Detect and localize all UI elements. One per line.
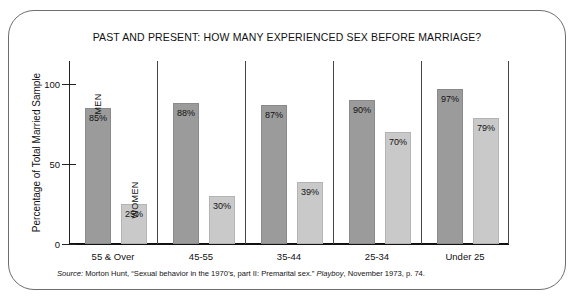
bar-group-under-25: 97% 79% Under 25 bbox=[421, 61, 509, 244]
series-tag-men-text: MEN bbox=[93, 94, 103, 115]
bar-value-label: 25% bbox=[122, 209, 146, 219]
bar-group-25-34: 90% 70% 25-34 bbox=[333, 61, 421, 244]
category-label: 35-44 bbox=[245, 251, 333, 262]
bar-value-label: 30% bbox=[210, 201, 234, 211]
bar-value-label: 70% bbox=[386, 137, 410, 147]
source-publication: Playboy bbox=[316, 269, 343, 278]
bar-women[interactable]: 70% bbox=[385, 132, 411, 244]
plot-area: 0 50 100 MEN 85% WOMEN 2 bbox=[69, 61, 509, 244]
source-prefix: Source: bbox=[57, 269, 83, 278]
series-tag-men: MEN bbox=[86, 75, 110, 109]
bar-value-label: 39% bbox=[298, 187, 322, 197]
bar-value-label: 79% bbox=[474, 123, 498, 133]
bar-group-45-55: 88% 30% 45-55 bbox=[157, 61, 245, 244]
bar-men[interactable]: 90% bbox=[349, 100, 375, 244]
category-label: 45-55 bbox=[157, 251, 245, 262]
bar-women[interactable]: 79% bbox=[473, 118, 499, 244]
bar-value-label: 90% bbox=[350, 105, 374, 115]
bar-value-label: 88% bbox=[174, 108, 198, 118]
y-tick-label: 50 bbox=[49, 159, 60, 170]
category-label: 25-34 bbox=[333, 251, 421, 262]
chart-title: PAST AND PRESENT: HOW MANY EXPERIENCED S… bbox=[9, 31, 565, 43]
category-label: Under 25 bbox=[421, 251, 509, 262]
y-axis-label: Percentage of Total Married Sample bbox=[29, 61, 45, 244]
bar-value-label: 87% bbox=[262, 110, 286, 120]
figure-panel: PAST AND PRESENT: HOW MANY EXPERIENCED S… bbox=[8, 10, 566, 290]
source-author: Morton Hunt, “Sexual behavior in the 197… bbox=[83, 269, 316, 278]
bar-value-label: 85% bbox=[86, 113, 110, 123]
y-tick-mark bbox=[62, 244, 76, 245]
bar-women[interactable]: WOMEN 25% bbox=[121, 204, 147, 244]
bar-men[interactable]: MEN 85% bbox=[85, 108, 111, 244]
source-suffix: , November 1973, p. 74. bbox=[343, 269, 424, 278]
bar-value-label: 97% bbox=[438, 94, 462, 104]
y-tick-label: 0 bbox=[55, 239, 60, 250]
series-tag-women: WOMEN bbox=[122, 171, 146, 205]
bar-men[interactable]: 87% bbox=[261, 105, 287, 244]
y-tick-label: 100 bbox=[44, 79, 60, 90]
bar-men[interactable]: 88% bbox=[173, 103, 199, 244]
bar-women[interactable]: 39% bbox=[297, 182, 323, 244]
bar-men[interactable]: 97% bbox=[437, 89, 463, 244]
bar-group-55-and-over: MEN 85% WOMEN 25% 55 & Over bbox=[69, 61, 157, 244]
source-citation: Source: Morton Hunt, “Sexual behavior in… bbox=[57, 269, 425, 278]
bar-women[interactable]: 30% bbox=[209, 196, 235, 244]
y-axis-label-text: Percentage of Total Married Sample bbox=[32, 73, 43, 232]
bar-group-35-44: 87% 39% 35-44 bbox=[245, 61, 333, 244]
category-label: 55 & Over bbox=[69, 251, 157, 262]
